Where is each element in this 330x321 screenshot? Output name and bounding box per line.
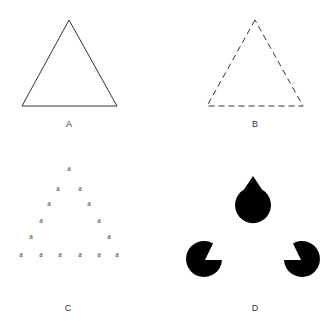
letter-a: a <box>97 250 101 259</box>
panel-label-b: B <box>252 119 258 129</box>
letter-a: a <box>56 184 60 193</box>
gestalt-diagram: A B a a a a a a a a a a a a a a a C D <box>0 0 330 321</box>
pacman-bottom-right <box>284 241 320 277</box>
letter-a: a <box>107 232 111 241</box>
panel-d: D <box>186 176 320 313</box>
solid-triangle <box>22 20 117 106</box>
panel-c: a a a a a a a a a a a a a a a C <box>19 164 119 313</box>
letter-a: a <box>58 250 62 259</box>
dashed-triangle <box>207 20 303 106</box>
panel-label-c: C <box>65 303 72 313</box>
pacman-bottom-left <box>186 241 222 277</box>
letter-a: a <box>47 199 51 208</box>
letter-a: a <box>67 164 71 173</box>
panel-label-d: D <box>252 303 259 313</box>
panel-label-a: A <box>66 119 72 129</box>
pacman-top <box>235 176 271 223</box>
letter-a: a <box>78 184 82 193</box>
letter-a: a <box>97 216 101 225</box>
panel-a: A <box>22 20 117 129</box>
letter-a: a <box>78 250 82 259</box>
letter-a: a <box>115 250 119 259</box>
letter-a: a <box>39 250 43 259</box>
letter-a: a <box>19 250 23 259</box>
letter-a: a <box>39 216 43 225</box>
panel-b: B <box>207 20 303 129</box>
letter-a: a <box>87 199 91 208</box>
letter-a: a <box>29 232 33 241</box>
